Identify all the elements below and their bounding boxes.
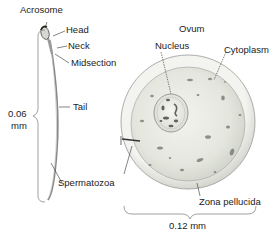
label-midsection: Midsection bbox=[71, 58, 116, 68]
ovum-scale-label: 0.12 mm bbox=[169, 221, 206, 231]
label-zona-pellucida: Zona pellucida bbox=[199, 197, 261, 207]
label-spermatozoa: Spermatozoa bbox=[58, 178, 115, 188]
label-head: Head bbox=[66, 25, 89, 35]
sperm-ovum-diagram: Acrosome Head Neck Midsection Tail Sperm… bbox=[0, 0, 276, 233]
spermatozoon bbox=[39, 26, 57, 200]
ovum-scale-brace bbox=[124, 206, 256, 219]
label-nucleus: Nucleus bbox=[155, 41, 189, 51]
label-acrosome: Acrosome bbox=[20, 5, 63, 15]
cytoplasm-shape bbox=[131, 67, 245, 181]
ovum-title: Ovum bbox=[179, 24, 204, 34]
ovum-cell bbox=[121, 55, 255, 189]
sperm-scale-value: 0.06 bbox=[8, 109, 27, 119]
label-neck: Neck bbox=[68, 41, 90, 51]
sperm-scale-unit: mm bbox=[11, 121, 27, 131]
label-cytoplasm: Cytoplasm bbox=[224, 45, 269, 55]
sperm-scale-brace bbox=[33, 30, 45, 202]
label-tail: Tail bbox=[73, 102, 87, 112]
